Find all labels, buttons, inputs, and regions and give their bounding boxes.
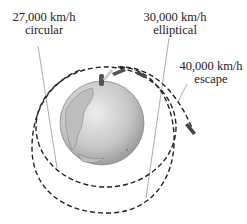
label-elliptical-type: elliptical — [135, 24, 215, 37]
label-elliptical: 30,000 km/h elliptical — [135, 11, 215, 37]
leader-line-escape — [178, 84, 187, 102]
label-circular: 27,000 km/h circular — [4, 11, 84, 37]
earth-globe-icon — [60, 81, 144, 165]
orbit-diagram: 27,000 km/h circular 30,000 km/h ellipti… — [0, 0, 247, 224]
rocket-icon — [112, 68, 126, 76]
label-escape: 40,000 km/h escape — [176, 60, 246, 86]
label-escape-type: escape — [176, 73, 246, 86]
label-circular-type: circular — [4, 24, 84, 37]
